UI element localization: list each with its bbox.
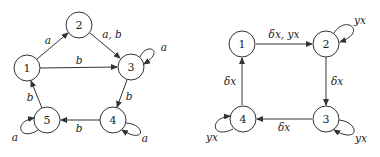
edge-label: b [76, 122, 83, 134]
state-node-4: 4 [100, 107, 126, 133]
state-node-3: 3 [313, 106, 339, 132]
state-node-3: 3 [118, 54, 144, 80]
edge-4-4: yx [205, 116, 233, 143]
edge-2-3: δx [326, 57, 343, 105]
svg-text:1: 1 [239, 38, 246, 51]
edge-label: yx [205, 131, 218, 143]
edge-4-5: b [61, 120, 100, 134]
edge-label: b [76, 54, 83, 66]
svg-text:4: 4 [240, 113, 247, 126]
svg-text:1: 1 [24, 62, 31, 75]
state-node-4: 4 [230, 106, 256, 132]
svg-text:2: 2 [323, 38, 330, 51]
svg-text:4: 4 [110, 114, 117, 127]
edge-label: δx, yx [269, 28, 300, 40]
edge-2-2: yx [334, 14, 366, 42]
edge-3-4: δx [257, 119, 312, 133]
edge-4-4: a [122, 123, 148, 144]
edge-label: b [126, 90, 133, 102]
edge-label: a, b [102, 28, 122, 40]
state-node-2: 2 [66, 12, 92, 38]
automata-diagrams: a a, b b a b a b a [0, 0, 380, 157]
svg-text:3: 3 [128, 61, 135, 74]
right-diagram: δx, yx yx δx yx δx yx δx 1 [205, 14, 367, 144]
edge-label: a [45, 34, 51, 46]
left-diagram: a a, b b a b a b a [12, 12, 167, 144]
state-node-1: 1 [14, 55, 40, 81]
svg-text:3: 3 [323, 113, 330, 126]
edge-5-1: b [27, 81, 42, 108]
edge-label: yx [354, 132, 367, 144]
edge-label: b [27, 91, 34, 103]
edge-label: δx [278, 121, 290, 133]
edge-1-2: δx, yx [256, 28, 312, 44]
edge-2-3: a, b [90, 28, 122, 58]
edge-label: δx [331, 75, 343, 87]
edge-3-4: b [117, 80, 133, 107]
svg-text:5: 5 [44, 114, 51, 127]
state-node-2: 2 [313, 31, 339, 57]
edge-1-3: b [40, 54, 117, 68]
edge-1-2: a [37, 33, 68, 59]
state-node-1: 1 [229, 31, 255, 57]
edge-4-1: δx [224, 58, 242, 105]
edge-label: a [12, 131, 18, 143]
edge-label: a [161, 41, 167, 53]
edge-label: yx [353, 14, 366, 26]
edge-3-3: yx [334, 120, 367, 144]
svg-text:2: 2 [76, 19, 83, 32]
edge-label: δx [224, 75, 236, 87]
state-node-5: 5 [34, 107, 60, 133]
edge-3-3: a [140, 41, 167, 64]
edge-label: a [142, 132, 148, 144]
